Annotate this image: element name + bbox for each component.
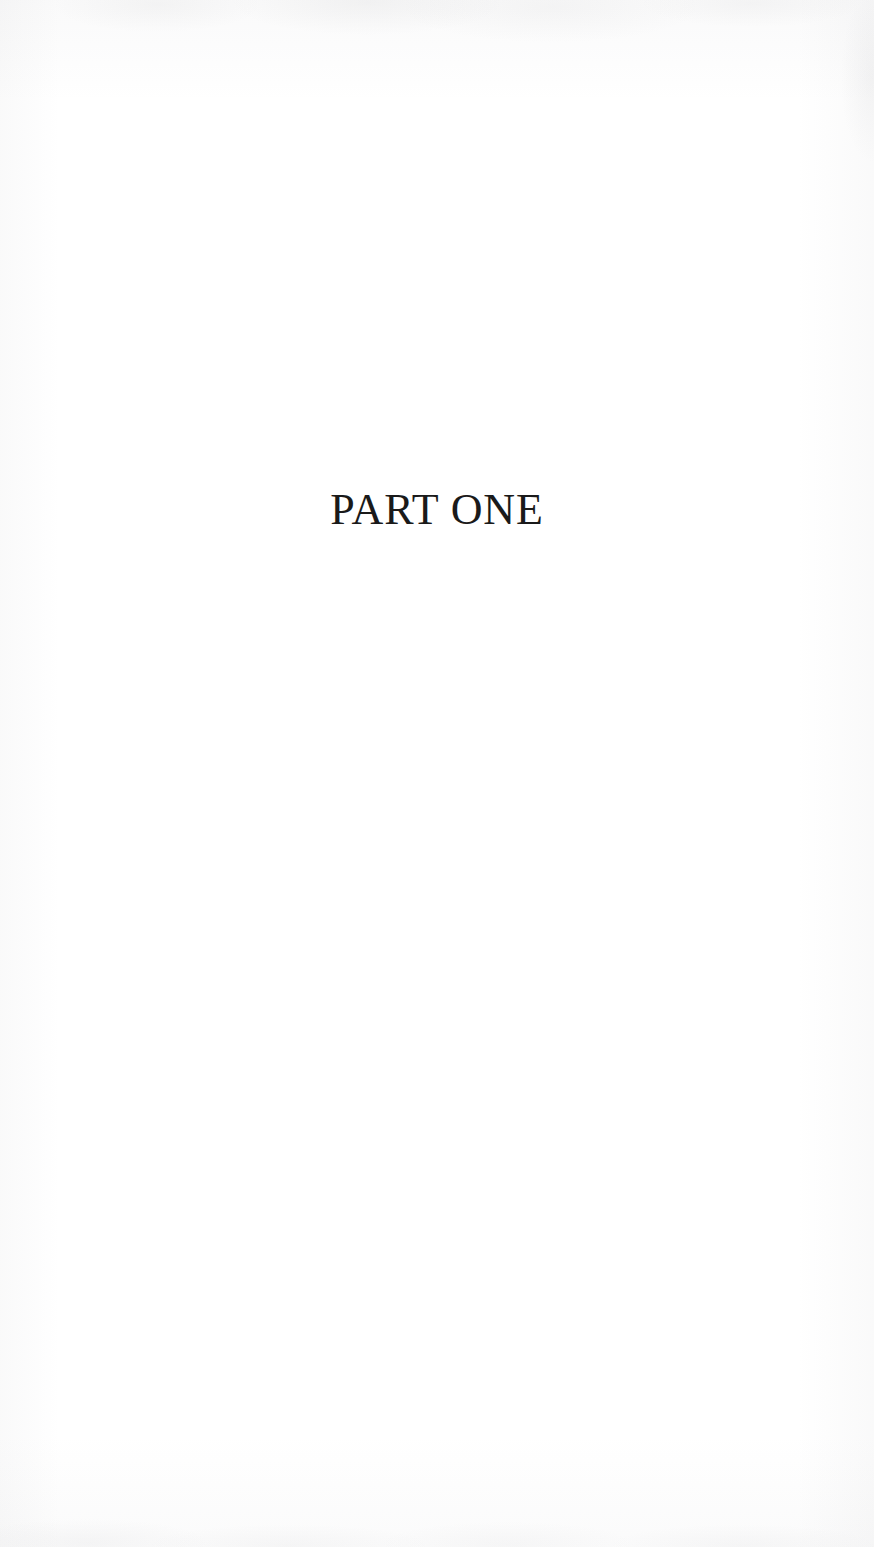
scan-artifact-right-edge — [784, 0, 874, 1547]
scanned-page: PART ONE — [0, 0, 874, 1547]
scan-artifact-top-edge — [0, 0, 874, 120]
part-title-block: PART ONE — [0, 484, 874, 536]
part-title: PART ONE — [330, 484, 544, 536]
scan-artifact-bottom-edge — [0, 1407, 874, 1547]
scan-artifact-left-edge — [0, 0, 70, 1547]
